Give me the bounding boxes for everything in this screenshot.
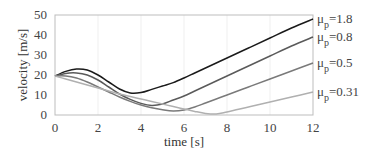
legend-entry: μp=0.31 [317,84,359,103]
svg-text:μp=0.31: μp=0.31 [317,84,359,103]
y-axis-label: velocity [m/s] [15,29,30,102]
x-tick-label: 10 [264,120,277,135]
x-axis-label: time [s] [164,134,204,149]
x-tick-label: 12 [307,120,320,135]
y-tick-label: 40 [34,27,47,42]
velocity-chart: 01020304050 024681012 μp=1.8μp=0.8μp=0.5… [0,0,371,154]
x-tick-label: 6 [181,120,188,135]
legend: μp=1.8μp=0.8μp=0.5μp=0.31 [317,11,359,103]
legend-entry: μp=0.8 [317,29,353,48]
svg-text:μp=0.8: μp=0.8 [317,29,353,48]
grid-lines [98,15,270,115]
y-axis-ticks: 01020304050 [34,7,47,122]
legend-entry: μp=0.5 [317,55,353,74]
y-tick-label: 50 [34,7,47,22]
svg-text:μp=0.5: μp=0.5 [317,55,353,74]
x-tick-label: 8 [224,120,231,135]
y-tick-label: 0 [41,107,48,122]
x-axis-ticks: 024681012 [52,120,320,135]
svg-text:μp=1.8: μp=1.8 [317,11,353,30]
legend-entry: μp=1.8 [317,11,353,30]
y-tick-label: 20 [34,67,47,82]
x-tick-label: 2 [95,120,102,135]
x-tick-label: 4 [138,120,145,135]
y-tick-label: 10 [34,87,47,102]
x-tick-label: 0 [52,120,59,135]
y-tick-label: 30 [34,47,47,62]
